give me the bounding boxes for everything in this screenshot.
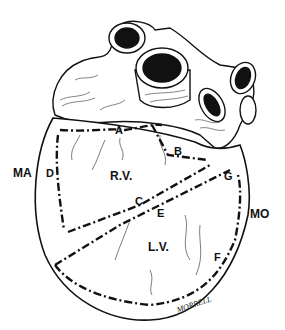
region-label-lv: L.V. [148,241,169,253]
point-label-b: B [174,146,182,157]
heart-illustration [0,0,285,330]
margin-label-mo: MO [250,208,269,220]
point-label-d: D [46,168,54,179]
region-label-rv: R.V. [110,170,132,182]
margin-label-ma: MA [13,167,32,179]
point-label-c: C [135,196,143,207]
heart-diagram: MA MO R.V. L.V. A B C D E F G MORRELL [0,0,285,330]
point-label-e: E [157,208,164,219]
point-label-f: F [214,252,221,263]
point-label-g: G [224,171,233,182]
point-label-a: A [115,125,123,136]
